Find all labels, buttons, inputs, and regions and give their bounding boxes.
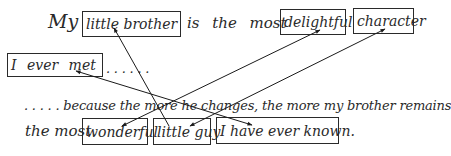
word-my: My [48, 12, 78, 31]
box-wonderful-label: wonderful [86, 124, 158, 140]
box-little-brother: little brother [82, 11, 181, 37]
box-little-brother-label: little brother [86, 16, 177, 32]
box-character: character [353, 8, 414, 34]
sentence-line-3: . . . . . because the more he changes, t… [24, 99, 451, 112]
box-little-guy: little guy [153, 118, 211, 145]
box-i-ever-met: I ever met [7, 53, 103, 77]
box-delightful-label: delightful [284, 14, 352, 30]
box-little-guy-label: little guy [157, 124, 220, 140]
box-wonderful: wonderful [82, 118, 148, 145]
words-is-the-most: is the most [187, 16, 287, 31]
box-i-have-ever-known: I have ever known. [216, 117, 339, 144]
box-i-ever-met-label: I ever met [11, 57, 96, 73]
box-delightful: delightful [280, 9, 346, 35]
box-character-label: character [357, 13, 426, 29]
box-i-have-ever-known-label: I have ever known. [220, 123, 355, 139]
trailing-dots: . . . . . . [106, 62, 149, 75]
